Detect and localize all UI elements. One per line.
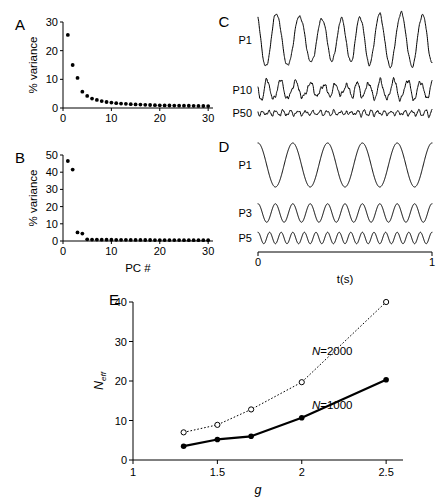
panel-a-data-point xyxy=(172,104,176,108)
panel-e-series-label: N=1000 xyxy=(312,399,353,411)
panel-a-data-point xyxy=(158,103,162,107)
panel-b-y-tick-label: 50 xyxy=(46,149,58,161)
panel-b-data-point xyxy=(95,238,99,242)
panel-d-trace-label-p5: P5 xyxy=(239,232,252,244)
panel-e-series-label: N=2000 xyxy=(312,345,353,357)
panel-a-x-tick-label: 20 xyxy=(154,112,166,124)
panel-b-data-point xyxy=(201,238,205,242)
panel-b-y-tick-label: 40 xyxy=(46,166,58,178)
panel-c-trace-p10 xyxy=(258,77,432,101)
panel-a-data-point xyxy=(192,104,196,108)
panel-letter-b: B xyxy=(15,149,25,166)
panel-e-x-tick-label: 2.5 xyxy=(378,466,393,478)
panel-b-data-point xyxy=(76,231,80,235)
panel-c-trace-label-p1: P1 xyxy=(239,34,252,46)
panel-a-data-point xyxy=(139,103,143,107)
panel-b-data-point xyxy=(71,168,75,172)
panel-b-data-point xyxy=(100,238,104,242)
panel-b-data-point xyxy=(134,238,138,242)
panel-a-data-point xyxy=(119,102,123,106)
panel-b-data-point xyxy=(168,238,172,242)
panel-b-data-point xyxy=(139,238,143,242)
panel-e-y-tick-label: 10 xyxy=(115,415,127,427)
panel-b-data-point xyxy=(80,232,84,236)
panel-a-data-point xyxy=(114,101,118,105)
panel-a-x-tick-label: 0 xyxy=(60,112,66,124)
panel-b-data-point xyxy=(109,238,113,242)
panel-b-data-point xyxy=(163,238,167,242)
panel-e-x-tick-label: 1 xyxy=(130,466,136,478)
panel-a-data-point xyxy=(163,104,167,108)
panel-b-data-point xyxy=(153,238,157,242)
panel-a-data-point xyxy=(85,94,89,98)
panel-a-y-tick-label: 0 xyxy=(52,102,58,114)
panel-d-trace-p1 xyxy=(258,143,432,187)
panel-letter-c: C xyxy=(219,13,230,30)
panel-b-data-point xyxy=(197,238,201,242)
panel-a-data-point xyxy=(105,100,109,104)
panel-letter-a: A xyxy=(15,16,25,33)
panel-letter-d: D xyxy=(219,138,230,155)
panel-a-data-point xyxy=(66,33,70,37)
panel-e-data-point xyxy=(299,380,304,385)
panel-e-data-point xyxy=(383,377,389,383)
panel-a-data-point xyxy=(71,63,75,67)
panel-d-trace-p5 xyxy=(258,232,432,243)
panel-a-y-tick-label: 10 xyxy=(46,73,58,85)
panel-e-y-axis-label: Neff xyxy=(92,371,108,390)
panel-b-x-axis-label: PC # xyxy=(125,262,151,274)
panel-a-data-point xyxy=(201,104,205,108)
panel-a-x-tick-label: 30 xyxy=(202,112,214,124)
panel-b-x-tick-label: 20 xyxy=(154,245,166,257)
panel-b-data-point xyxy=(66,159,70,163)
panel-e-x-tick-label: 2 xyxy=(299,466,305,478)
panel-a-data-point xyxy=(182,104,186,108)
panel-c-trace-label-p50: P50 xyxy=(232,107,252,119)
panel-a-y-tick-label: 20 xyxy=(46,45,58,57)
panel-a-data-point xyxy=(90,97,94,101)
panel-d-trace-label-p3: P3 xyxy=(239,207,252,219)
panel-b-y-axis-label: % variance xyxy=(27,170,39,227)
panel-a-data-point xyxy=(143,103,147,107)
panel-b-data-point xyxy=(206,238,210,242)
panel-a-data-point xyxy=(187,104,191,108)
panel-e-series-line xyxy=(184,380,387,446)
panel-b-data-point xyxy=(85,237,89,241)
panel-b-x-tick-label: 10 xyxy=(105,245,117,257)
panel-b-data-point xyxy=(192,238,196,242)
panel-b-y-tick-label: 10 xyxy=(46,218,58,230)
panel-a-data-point xyxy=(80,90,84,94)
panel-d-trace-label-p1: P1 xyxy=(239,159,252,171)
panel-d-x-axis-label: t(s) xyxy=(337,273,354,285)
panel-c-trace-label-p10: P10 xyxy=(232,84,252,96)
panel-e-data-point xyxy=(181,443,187,449)
panel-b-x-tick-label: 0 xyxy=(60,245,66,257)
panel-b-data-point xyxy=(158,238,162,242)
panel-a-y-axis-label: % variance xyxy=(27,37,39,94)
panel-b-data-point xyxy=(119,238,123,242)
panel-b-data-point xyxy=(129,238,133,242)
panel-d-x-tick-label: 1 xyxy=(429,256,435,268)
panel-a-data-point xyxy=(134,103,138,107)
panel-b-y-tick-label: 0 xyxy=(52,235,58,247)
panel-e-y-tick-label: 20 xyxy=(115,375,127,387)
panel-b-data-point xyxy=(187,238,191,242)
panel-b-data-point xyxy=(124,238,128,242)
panel-a-data-point xyxy=(153,103,157,107)
panel-e-data-point xyxy=(384,299,389,304)
panel-a-data-point xyxy=(95,98,99,102)
panel-b-x-tick-label: 30 xyxy=(202,245,214,257)
panel-a-data-point xyxy=(124,102,128,106)
panel-a-data-point xyxy=(129,102,133,106)
panel-e-y-tick-label: 0 xyxy=(121,454,127,466)
panel-b-y-tick-label: 30 xyxy=(46,183,58,195)
panel-b-data-point xyxy=(172,238,176,242)
figure-container: 01020300102030% variance0102030405001020… xyxy=(0,0,439,500)
panel-e-x-tick-label: 1.5 xyxy=(210,466,225,478)
panel-c-trace-p50 xyxy=(258,109,432,117)
panel-e-data-point xyxy=(215,437,221,443)
panel-b-data-point xyxy=(114,238,118,242)
panel-b-data-point xyxy=(90,238,94,242)
panel-a-data-point xyxy=(177,104,181,108)
panel-a-data-point xyxy=(168,104,172,108)
